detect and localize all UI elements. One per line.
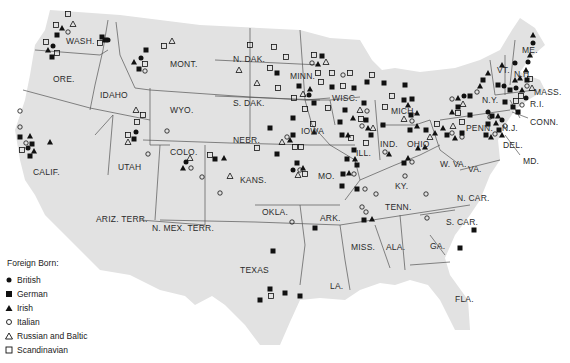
state-label: WASH. xyxy=(66,37,95,46)
legend-title: Foreign Born: xyxy=(7,258,87,268)
state-label: N. DAK. xyxy=(233,55,265,64)
filled-circle-icon xyxy=(4,275,14,285)
state-label: KANS. xyxy=(240,176,267,185)
state-label: R.I. xyxy=(530,100,544,109)
state-label: TEXAS xyxy=(240,266,269,275)
state-label: N. MEX. TERR. xyxy=(152,224,214,233)
state-label: MINN. xyxy=(290,72,315,81)
state-label: ORE. xyxy=(53,75,75,84)
state-label: CALIF. xyxy=(33,168,60,177)
state-label: MICH. xyxy=(391,107,416,116)
state-label: OHIO xyxy=(407,140,430,149)
state-label: FLA. xyxy=(455,295,474,304)
state-label: GA. xyxy=(430,242,445,251)
legend-label: Russian and Baltic xyxy=(17,331,87,341)
state-label: WISC. xyxy=(332,94,358,103)
open-circle-icon xyxy=(4,317,14,327)
open-square-icon xyxy=(4,345,14,355)
state-label: LA. xyxy=(330,282,343,291)
legend-label: Irish xyxy=(17,303,33,313)
filled-triangle-icon xyxy=(4,303,14,313)
state-label: UTAH xyxy=(118,163,141,172)
legend-label: German xyxy=(17,289,48,299)
legend-item-british: British xyxy=(4,273,87,287)
state-label: TENN. xyxy=(385,203,412,212)
filled-square-icon xyxy=(4,289,14,299)
state-label: MONT. xyxy=(170,60,197,69)
state-label: N.J. xyxy=(502,124,518,133)
state-label: IND. xyxy=(380,140,398,149)
legend-item-german: German xyxy=(4,287,87,301)
legend: Foreign Born: British German Irish Itali… xyxy=(4,258,87,357)
state-label: ARIZ. TERR. xyxy=(96,215,148,224)
state-label: S. CAR. xyxy=(446,218,478,227)
state-label: N.H. xyxy=(514,70,532,79)
state-label: MASS. xyxy=(534,88,561,97)
state-label: KY. xyxy=(395,182,408,191)
legend-label: Italian xyxy=(17,317,40,327)
legend-label: British xyxy=(17,275,41,285)
state-label: ARK. xyxy=(320,214,341,223)
legend-item-scandinavian: Scandinavian xyxy=(4,343,87,357)
state-label: N.Y. xyxy=(482,96,498,105)
state-label: COLO. xyxy=(170,148,197,157)
state-label: S. DAK. xyxy=(233,99,265,108)
state-label: N. CAR. xyxy=(457,194,490,203)
legend-item-russian-baltic: Russian and Baltic xyxy=(4,329,87,343)
state-label: VA. xyxy=(468,165,482,174)
state-label: ME. xyxy=(522,46,538,55)
state-label: VT. xyxy=(497,66,510,75)
state-label: PENN. xyxy=(466,124,493,133)
state-label: MD. xyxy=(523,157,539,166)
state-label: W. VA. xyxy=(440,160,467,169)
open-triangle-icon xyxy=(4,331,14,341)
state-label: NEBR. xyxy=(233,136,260,145)
state-label: OKLA. xyxy=(262,208,288,217)
legend-item-italian: Italian xyxy=(4,315,87,329)
state-label: IDAHO xyxy=(100,91,128,100)
legend-item-irish: Irish xyxy=(4,301,87,315)
state-label: CONN. xyxy=(530,118,558,127)
state-label: MO. xyxy=(318,172,335,181)
state-label: DEL. xyxy=(503,141,523,150)
state-label: ALA. xyxy=(386,243,405,252)
state-label: WYO. xyxy=(170,106,193,115)
state-label: MISS. xyxy=(351,243,375,252)
state-label: ILL. xyxy=(356,149,371,158)
legend-label: Scandinavian xyxy=(17,345,68,355)
state-label: IOWA xyxy=(301,127,324,136)
